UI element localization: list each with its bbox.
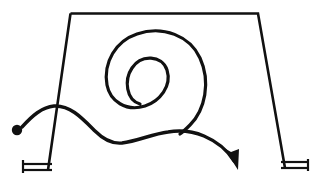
sketch-canvas: Sketch of a spiral trajectory over a tra… [0,0,321,184]
path-start-dot [12,125,22,135]
line-drawing [0,0,321,184]
